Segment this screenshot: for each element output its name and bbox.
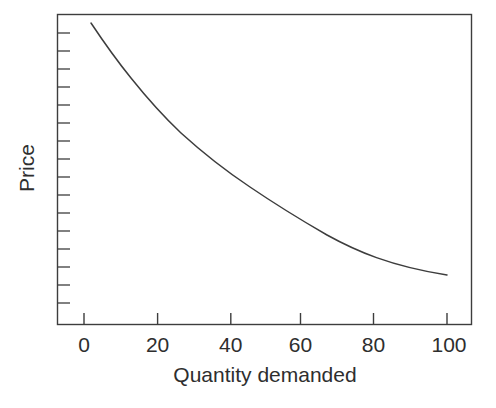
- x-tick-label-0: 0: [78, 333, 90, 356]
- demand-curve-chart: 0 20 40 60 80 100 Quantity demanded Pric…: [0, 0, 496, 408]
- y-axis-title: Price: [15, 144, 38, 192]
- chart-background: [0, 0, 496, 408]
- x-tick-label-40: 40: [219, 333, 242, 356]
- x-tick-label-80: 80: [362, 333, 385, 356]
- x-tick-label-100: 100: [431, 333, 466, 356]
- chart-figure: 0 20 40 60 80 100 Quantity demanded Pric…: [0, 0, 496, 408]
- x-tick-label-20: 20: [146, 333, 169, 356]
- x-tick-label-60: 60: [289, 333, 312, 356]
- x-axis-title: Quantity demanded: [173, 363, 356, 386]
